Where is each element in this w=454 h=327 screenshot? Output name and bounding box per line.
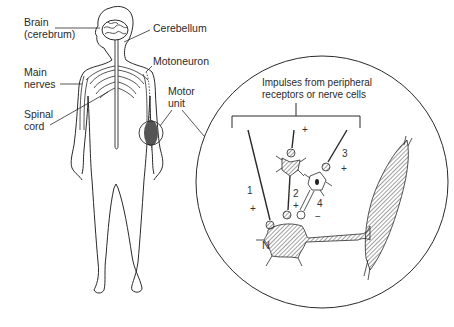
label-motoneuron: Motoneuron [153,55,209,67]
inset-caption-line1: Impulses from peripheral [262,77,372,89]
label-spinal-cord-line1: Spinal [24,108,53,120]
input-3-number: 3 [342,148,348,159]
label-main-nerves: Main nerves [24,66,56,90]
label-brain: Brain (cerebrum) [24,16,75,40]
label-main-nerves-line1: Main [24,66,56,78]
leader-lines [50,28,204,136]
muscle-icon [364,136,412,280]
top-input-sign: + [302,124,308,135]
input-1-sign: + [250,203,256,214]
motoneuron-cell [256,224,370,266]
input-2-sign: + [293,200,299,211]
label-cerebellum: Cerebellum [153,22,207,34]
input-4-sign: − [315,211,321,222]
label-motor-unit-line2: unit [168,97,195,109]
label-main-nerves-line2: nerves [24,78,56,90]
label-motor-unit-line1: Motor [168,85,195,97]
inset-caption-line2: receptors or nerve cells [262,89,372,101]
main-nerves [80,66,152,150]
inset-caption: Impulses from peripheral receptors or ne… [262,77,372,101]
input-3-sign: + [341,163,347,174]
label-spinal-cord: Spinal cord [24,108,53,132]
human-body-outline [71,6,163,293]
input-bracket [232,103,360,128]
label-motor-unit: Motor unit [168,85,195,109]
label-brain-line1: Brain [24,16,75,28]
input-1-number: 1 [247,185,253,196]
spinal-cord [115,40,118,149]
brain-icon [102,20,128,40]
diagram-canvas [0,0,454,327]
input-4-number: 4 [317,198,323,209]
input-2-number: 2 [293,188,299,199]
motor-unit-marker [139,120,163,146]
label-brain-line2: (cerebrum) [24,28,75,40]
motoneuron-label: N [262,240,270,251]
label-spinal-cord-line2: cord [24,120,53,132]
